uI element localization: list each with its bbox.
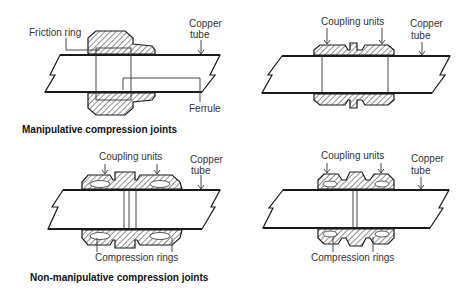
label-tube: tube	[411, 165, 431, 176]
union-nut-lower	[88, 93, 155, 115]
label-ferrule: Ferrule	[189, 103, 221, 114]
label-compression-rings: Compression rings	[311, 252, 394, 263]
label-friction-ring: Friction ring	[29, 27, 81, 38]
compression-joints-diagram: Friction ring Copper tube Ferrule Manipu…	[0, 0, 475, 292]
label-copper: Copper	[189, 18, 222, 29]
non-manipulative-joint-right: Coupling units Copper tube Compression r…	[263, 150, 449, 263]
label-tube: tube	[191, 165, 211, 176]
caption-non-manipulative: Non-manipulative compression joints	[30, 272, 209, 283]
manipulative-joint-right: Coupling units Copper tube	[262, 16, 450, 108]
manipulative-joint-left: Friction ring Copper tube Ferrule	[29, 18, 222, 115]
copper-tube	[263, 190, 449, 228]
union-nut-upper	[88, 31, 155, 54]
copper-tube	[262, 56, 450, 93]
label-compression-rings: Compression rings	[95, 252, 178, 263]
label-tube: tube	[190, 29, 210, 40]
label-copper: Copper	[190, 154, 223, 165]
coupling-units-lower	[314, 94, 394, 108]
label-tube: tube	[411, 30, 431, 41]
caption-manipulative: Manipulative compression joints	[22, 124, 177, 135]
label-copper: Copper	[411, 153, 444, 164]
label-coupling-units: Coupling units	[99, 151, 162, 162]
copper-tube	[48, 190, 220, 229]
non-manipulative-joint-left: Coupling units Copper tube Compression r…	[48, 151, 223, 263]
label-coupling-units: Coupling units	[321, 150, 384, 161]
label-copper: Copper	[410, 18, 443, 29]
coupling-units-upper	[314, 43, 394, 55]
label-coupling-units: Coupling units	[321, 16, 384, 27]
copper-tube	[45, 55, 220, 92]
